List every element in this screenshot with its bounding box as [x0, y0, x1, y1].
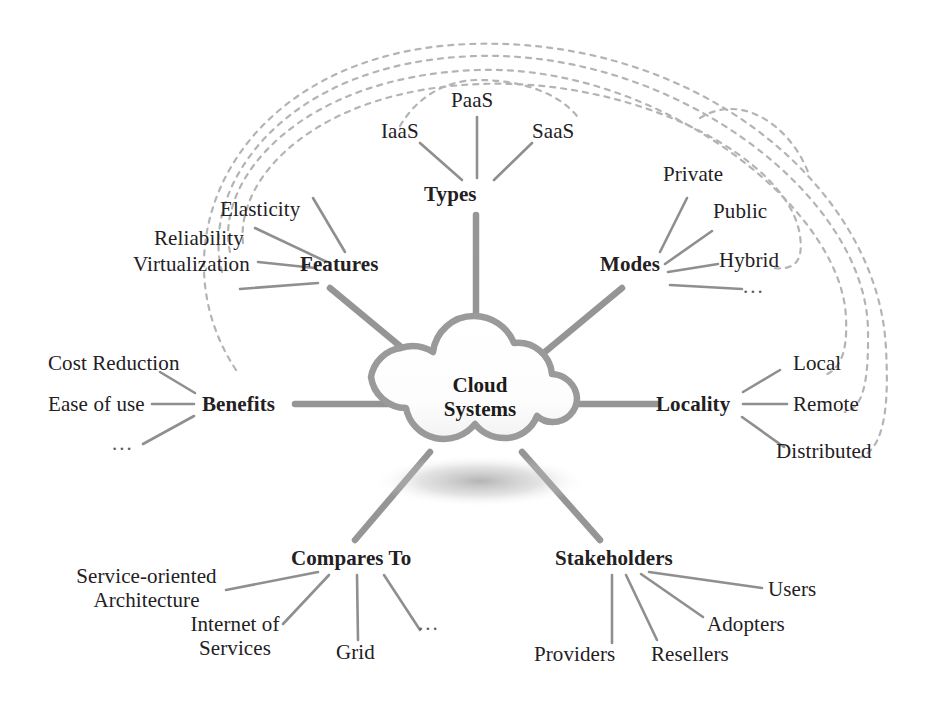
twig-modes-public — [665, 231, 712, 264]
leaf-distributed[interactable]: Distributed — [776, 440, 872, 464]
leaf-resellers[interactable]: Resellers — [651, 643, 729, 667]
twig-modes-private — [660, 198, 687, 252]
leaf-public[interactable]: Public — [713, 200, 767, 224]
branch-label-types[interactable]: Types — [424, 183, 477, 207]
branch-label-stakeholders[interactable]: Stakeholders — [555, 547, 673, 571]
branch-label-compares-to[interactable]: Compares To — [291, 547, 411, 571]
leaf-paas[interactable]: PaaS — [451, 89, 493, 113]
leaf-elasticity[interactable]: Elasticity — [220, 198, 300, 222]
branch-label-modes[interactable]: Modes — [600, 253, 660, 277]
leaf-benefits-more[interactable]: ... — [112, 432, 134, 456]
leaf-providers[interactable]: Providers — [534, 643, 615, 667]
center-node-label: Cloud Systems — [416, 373, 544, 422]
leaf-internet-of-services[interactable]: Internet of Services — [178, 613, 292, 660]
twig-types-saas — [494, 143, 532, 180]
leaf-local[interactable]: Local — [793, 352, 841, 376]
leaf-hybrid[interactable]: Hybrid — [719, 249, 779, 273]
branch-label-benefits[interactable]: Benefits — [202, 393, 275, 417]
leaf-iaas[interactable]: IaaS — [381, 120, 419, 144]
twig-compares-soa — [226, 572, 318, 590]
leaf-modes-more[interactable]: ... — [743, 275, 765, 299]
twig-features-elasticity — [313, 198, 345, 252]
center-line-2: Systems — [416, 397, 544, 421]
leaf-adopters[interactable]: Adopters — [707, 613, 785, 637]
twig-stakeholders-resellers — [626, 575, 657, 640]
leaf-private[interactable]: Private — [663, 163, 723, 187]
twig-compares-grid — [357, 575, 358, 640]
leaf-ease-of-use[interactable]: Ease of use — [48, 393, 145, 417]
twig-features-more — [240, 283, 318, 289]
twig-benefits-more — [143, 416, 194, 444]
leaf-virtualization[interactable]: Virtualization — [133, 253, 250, 277]
twig-locality-local — [743, 370, 780, 392]
twig-types-iaas — [420, 143, 462, 180]
leaf-service-oriented-architecture[interactable]: Service-oriented Architecture — [64, 565, 229, 612]
twig-compares-more — [384, 575, 420, 630]
leaf-grid[interactable]: Grid — [336, 641, 375, 665]
center-line-1: Cloud — [416, 373, 544, 397]
twig-modes-hybrid — [668, 264, 718, 272]
branch-label-features[interactable]: Features — [300, 253, 379, 277]
cloud-shadow — [372, 455, 588, 507]
leaf-reliability[interactable]: Reliability — [154, 227, 244, 251]
twig-stakeholders-users — [649, 572, 762, 588]
mindmap-canvas: Cloud Systems Types IaaS PaaS SaaS Featu… — [0, 0, 951, 721]
leaf-users[interactable]: Users — [768, 578, 816, 602]
leaf-cost-reduction[interactable]: Cost Reduction — [48, 352, 179, 376]
twig-modes-more — [670, 285, 742, 289]
twig-stakeholders-adopters — [641, 574, 703, 617]
leaf-compares-more[interactable]: ... — [418, 612, 440, 636]
leaf-saas[interactable]: SaaS — [532, 120, 574, 144]
branch-label-locality[interactable]: Locality — [656, 393, 730, 417]
leaf-remote[interactable]: Remote — [793, 393, 859, 417]
